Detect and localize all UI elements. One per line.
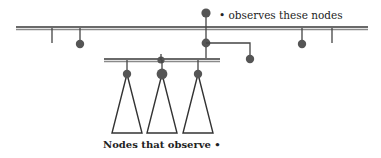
observes-label: • observes these nodes <box>219 9 343 21</box>
subtree-3 <box>183 60 213 133</box>
node-right <box>298 40 306 48</box>
subtree-1 <box>112 60 142 133</box>
observation-diagram <box>0 0 381 158</box>
node-left <box>76 40 84 48</box>
observer-node <box>201 8 210 17</box>
observers-label: Nodes that observe • <box>103 139 221 150</box>
top-bar <box>16 27 368 30</box>
branch-node <box>246 55 254 63</box>
subtree-2 <box>147 60 177 133</box>
branch-right <box>206 43 250 57</box>
